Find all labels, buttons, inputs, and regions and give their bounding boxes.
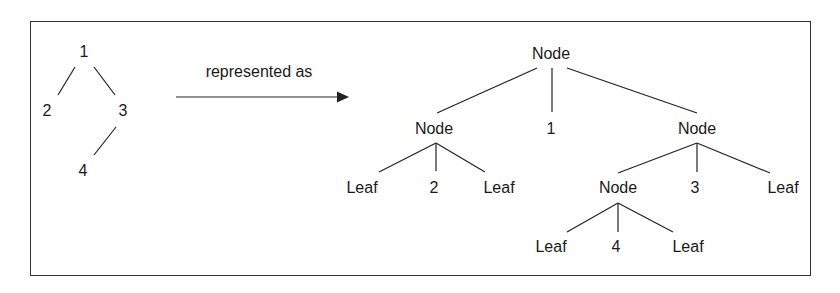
arrow-head-icon: [337, 92, 349, 103]
src-1: 1: [80, 44, 89, 60]
rep-leaf: Leaf: [483, 180, 514, 196]
src-4: 4: [79, 163, 88, 179]
rep-2: 2: [430, 180, 439, 196]
rep-1: 1: [547, 121, 556, 137]
rep-node: Node: [599, 180, 637, 196]
src-3: 3: [119, 103, 128, 119]
rep-node: Node: [415, 121, 453, 137]
rep-leaf: Leaf: [535, 239, 566, 255]
rep-leaf: Leaf: [346, 180, 377, 196]
rep-4: 4: [612, 239, 621, 255]
edges: [0, 0, 840, 293]
src-2: 2: [43, 103, 52, 119]
rep-leaf: Leaf: [672, 239, 703, 255]
arrow-label: represented as: [206, 64, 313, 80]
rep-leaf: Leaf: [767, 180, 798, 196]
rep-node: Node: [678, 121, 716, 137]
rep-node: Node: [532, 46, 570, 62]
rep-3: 3: [691, 180, 700, 196]
